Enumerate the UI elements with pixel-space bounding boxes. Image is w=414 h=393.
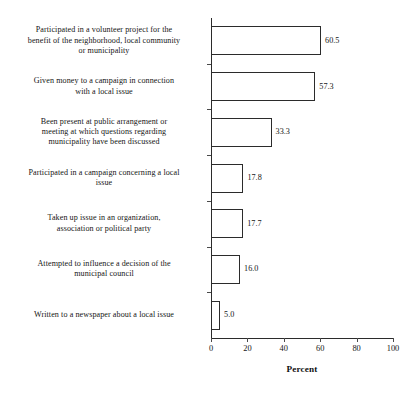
x-axis-title: Percent <box>211 364 393 374</box>
bar-value-label: 17.7 <box>247 220 261 228</box>
category-label-line: Been present at public arrangement or <box>8 117 200 127</box>
category-label: Taken up issue in an organization,associ… <box>8 213 200 234</box>
category-label: Been present at public arrangement ormee… <box>8 117 200 148</box>
bar <box>211 209 243 238</box>
category-label-line: Participated in a campaign concerning a … <box>8 168 200 178</box>
x-axis-line <box>211 338 393 339</box>
bar <box>211 255 240 284</box>
category-label-line: benefit of the neighborhood, local commu… <box>8 36 200 46</box>
category-label-line: Given money to a campaign in connection <box>8 76 200 86</box>
bar-value-label: 57.3 <box>319 83 333 91</box>
y-axis-tick <box>207 109 211 110</box>
x-axis-tick <box>393 338 394 342</box>
category-label: Attempted to influence a decision of the… <box>8 259 200 280</box>
plot-area: 60.557.333.317.817.716.05.0 <box>211 18 393 338</box>
x-axis-tick-label: 40 <box>269 345 299 353</box>
category-label-line: municipal council <box>8 269 200 279</box>
bar <box>211 26 321 55</box>
y-axis-tick <box>207 155 211 156</box>
x-axis-tick <box>284 338 285 342</box>
category-label-line: issue <box>8 178 200 188</box>
category-label-line: municipality have been discussed <box>8 137 200 147</box>
x-axis-tick-label: 20 <box>232 345 262 353</box>
x-axis-tick <box>357 338 358 342</box>
x-axis-tick-label: 60 <box>305 345 335 353</box>
bar-value-label: 17.8 <box>247 174 261 182</box>
category-label: Participated in a campaign concerning a … <box>8 168 200 189</box>
bar-chart: Participated in a volunteer project for … <box>0 0 414 393</box>
category-label-line: meeting at which questions regarding <box>8 127 200 137</box>
x-axis-tick <box>247 338 248 342</box>
bar-value-label: 5.0 <box>224 311 234 319</box>
category-label: Written to a newspaper about a local iss… <box>8 310 200 320</box>
bar <box>211 164 243 193</box>
bar-value-label: 60.5 <box>325 37 339 45</box>
y-axis-tick <box>207 292 211 293</box>
bar <box>211 301 220 330</box>
category-label: Given money to a campaign in connectionw… <box>8 76 200 97</box>
x-axis-tick-label: 100 <box>378 345 408 353</box>
x-axis-tick-label: 80 <box>342 345 372 353</box>
category-label-line: Attempted to influence a decision of the <box>8 259 200 269</box>
category-label-line: association or political party <box>8 224 200 234</box>
category-label-line: Taken up issue in an organization, <box>8 213 200 223</box>
bar-value-label: 16.0 <box>244 265 258 273</box>
category-label-line: Participated in a volunteer project for … <box>8 25 200 35</box>
category-axis-labels: Participated in a volunteer project for … <box>8 18 204 338</box>
x-axis-tick-label: 0 <box>196 345 226 353</box>
bar <box>211 72 315 101</box>
y-axis-tick <box>207 201 211 202</box>
category-label-line: Written to a newspaper about a local iss… <box>8 310 200 320</box>
y-axis-tick <box>207 247 211 248</box>
bar-value-label: 33.3 <box>276 128 290 136</box>
category-label: Participated in a volunteer project for … <box>8 25 200 56</box>
y-axis-tick <box>207 64 211 65</box>
x-axis-tick <box>320 338 321 342</box>
bar <box>211 118 272 147</box>
category-label-line: with a local issue <box>8 87 200 97</box>
category-label-line: or municipality <box>8 46 200 56</box>
x-axis-tick <box>211 338 212 342</box>
